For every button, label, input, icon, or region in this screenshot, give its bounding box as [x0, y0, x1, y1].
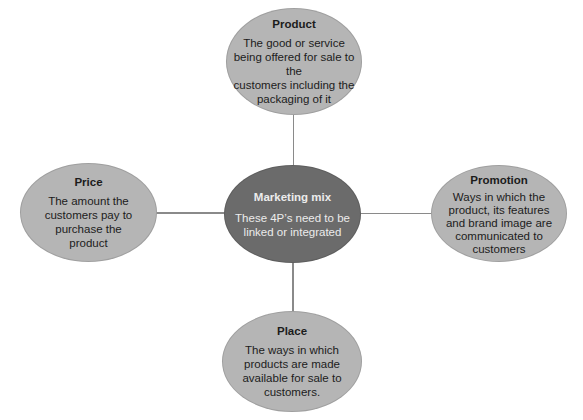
desc-line: customers: [446, 243, 552, 256]
desc-line: being offered for sale to the: [226, 50, 362, 78]
node-product: Product The good or service being offere…: [226, 8, 362, 115]
node-product-description: The good or service being offered for sa…: [226, 36, 362, 106]
desc-line: customers including the: [226, 78, 362, 92]
node-price-title: Price: [74, 175, 102, 189]
node-place-title: Place: [277, 324, 307, 338]
connector-center-product: [293, 114, 295, 166]
desc-line: communicated to: [446, 230, 552, 243]
desc-line: The good or service: [226, 36, 362, 50]
node-product-title: Product: [272, 17, 315, 31]
node-promotion-title: Promotion: [470, 173, 528, 187]
node-price: Price The amount the customers pay to pu…: [20, 163, 157, 262]
desc-line: and brand image are: [446, 217, 552, 230]
desc-line: customers pay to: [45, 208, 133, 222]
desc-line: product: [45, 236, 133, 250]
node-center-title: Marketing mix: [254, 190, 331, 204]
connector-center-price: [156, 212, 226, 214]
node-promotion: Promotion Ways in which the product, its…: [431, 165, 567, 262]
desc-line: product, its features: [446, 204, 552, 217]
connector-center-place: [292, 262, 294, 312]
desc-line: available for sale to: [242, 371, 341, 385]
node-marketing-mix: Marketing mix These 4P’s need to be link…: [224, 165, 361, 263]
desc-line: linked or integrated: [235, 225, 350, 239]
desc-line: purchase the: [45, 222, 133, 236]
desc-line: The ways in which: [242, 343, 341, 357]
connector-center-promotion: [360, 213, 432, 215]
desc-line: packaging of it: [226, 92, 362, 106]
desc-line: customers.: [242, 385, 341, 399]
desc-line: These 4P’s need to be: [235, 211, 350, 225]
desc-line: Ways in which the: [446, 191, 552, 204]
node-place: Place The ways in which products are mad…: [222, 311, 362, 412]
marketing-mix-diagram: Product The good or service being offere…: [0, 0, 583, 420]
node-center-description: These 4P’s need to be linked or integrat…: [235, 211, 350, 239]
desc-line: products are made: [242, 357, 341, 371]
node-place-description: The ways in which products are made avai…: [242, 343, 341, 399]
desc-line: The amount the: [45, 194, 133, 208]
node-promotion-description: Ways in which the product, its features …: [446, 191, 552, 256]
node-price-description: The amount the customers pay to purchase…: [45, 194, 133, 250]
